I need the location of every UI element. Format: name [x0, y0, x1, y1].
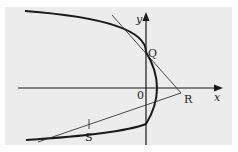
y-axis-label: y — [135, 13, 143, 26]
origin-label: 0 — [137, 89, 144, 102]
parabola-curve — [25, 11, 157, 140]
point-s-label: S — [85, 131, 93, 144]
y-axis-arrow-icon — [143, 12, 150, 21]
point-q-label: Q — [148, 47, 157, 60]
x-axis — [18, 85, 223, 92]
tangent-s-r — [38, 93, 181, 142]
x-axis-label: x — [214, 91, 221, 104]
point-r-label: R — [184, 93, 193, 106]
diagram-svg: y x 0 Q R S — [0, 0, 238, 152]
